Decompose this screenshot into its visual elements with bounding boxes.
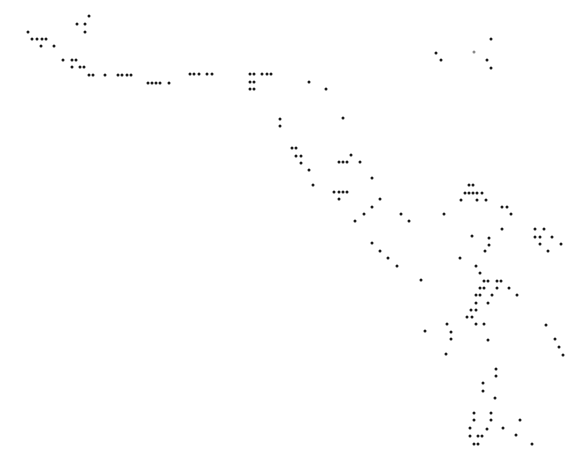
dot-mark: [534, 228, 537, 231]
dot-mark: [159, 82, 162, 85]
dot-mark: [495, 368, 498, 371]
dot-mark: [71, 66, 74, 69]
dot-mark: [539, 236, 542, 239]
dot-mark: [440, 59, 443, 62]
dot-mark: [354, 220, 357, 223]
dot-mark: [547, 250, 550, 253]
dot-mark: [468, 184, 471, 187]
dot-mark: [371, 206, 374, 209]
dot-mark: [473, 51, 476, 54]
dot-mark: [519, 419, 522, 422]
dot-mark: [300, 155, 303, 158]
dot-mark: [308, 81, 311, 84]
dot-mark: [475, 294, 478, 297]
dot-mark: [472, 192, 475, 195]
dot-mark: [279, 125, 282, 128]
dot-mark: [346, 191, 349, 194]
dot-mark: [333, 191, 336, 194]
dot-mark: [408, 220, 411, 223]
dot-mark: [483, 287, 486, 290]
dot-mark: [483, 280, 486, 283]
dot-mark: [371, 242, 374, 245]
dot-mark: [36, 38, 39, 41]
dot-mark: [491, 294, 494, 297]
dot-mark: [189, 73, 192, 76]
dot-mark: [475, 302, 478, 305]
dot-mark: [92, 74, 95, 77]
dot-mark: [488, 244, 491, 247]
dot-mark: [460, 199, 463, 202]
dot-mark: [464, 192, 467, 195]
dot-mark: [435, 52, 438, 55]
dot-mark: [363, 213, 366, 216]
dot-mark: [342, 191, 345, 194]
dot-mark: [496, 280, 499, 283]
dot-mark: [490, 412, 493, 415]
dot-mark: [79, 66, 82, 69]
dot-mark: [485, 199, 488, 202]
dot-mark: [484, 250, 487, 253]
dot-mark: [487, 339, 490, 342]
dot-mark: [506, 206, 509, 209]
dot-mark: [31, 38, 34, 41]
dot-mark: [338, 161, 341, 164]
dot-mark: [300, 162, 303, 165]
dot-mark: [562, 354, 565, 357]
dot-mark: [468, 192, 471, 195]
dot-mark: [501, 206, 504, 209]
dot-mark: [379, 250, 382, 253]
dot-mark: [551, 236, 554, 239]
dot-mark: [62, 59, 65, 62]
dot-mark: [471, 316, 474, 319]
dot-mark: [501, 228, 504, 231]
dot-mark: [71, 59, 74, 62]
dot-mark: [291, 147, 294, 150]
dot-mark: [479, 294, 482, 297]
dot-mark: [396, 265, 399, 268]
dot-drawing-canvas: [0, 0, 584, 461]
dot-mark: [130, 74, 133, 77]
dot-mark: [249, 81, 252, 84]
dot-mark: [539, 243, 542, 246]
dot-mark: [338, 191, 341, 194]
dot-mark: [211, 73, 214, 76]
dot-mark: [342, 117, 345, 120]
dot-mark: [308, 169, 311, 172]
dot-mark: [487, 302, 490, 305]
dot-mark: [420, 279, 423, 282]
dot-mark: [104, 74, 107, 77]
dot-mark: [473, 443, 476, 446]
dot-mark: [558, 346, 561, 349]
dot-mark: [481, 192, 484, 195]
dot-mark: [266, 73, 269, 76]
dot-mark: [469, 435, 472, 438]
dot-mark: [295, 155, 298, 158]
dot-mark: [459, 257, 462, 260]
dot-mark: [475, 309, 478, 312]
dot-mark: [443, 213, 446, 216]
dot-mark: [446, 323, 449, 326]
dot-mark: [350, 154, 353, 157]
dot-mark: [279, 118, 282, 121]
dot-mark: [359, 161, 362, 164]
dot-mark: [253, 73, 256, 76]
dot-mark: [253, 88, 256, 91]
dot-mark: [445, 353, 448, 356]
dot-mark: [88, 15, 91, 18]
dot-mark: [477, 435, 480, 438]
dot-mark: [476, 192, 479, 195]
dot-mark: [545, 324, 548, 327]
dot-mark: [466, 316, 469, 319]
dot-mark: [84, 23, 87, 26]
dot-mark: [486, 59, 489, 62]
dot-mark: [515, 434, 518, 437]
dot-mark: [502, 427, 505, 430]
dot-mark: [387, 257, 390, 260]
dot-mark: [450, 331, 453, 334]
dot-mark: [424, 330, 427, 333]
dot-mark: [496, 287, 499, 290]
dot-mark: [147, 82, 150, 85]
dot-mark: [371, 177, 374, 180]
dot-mark: [469, 427, 472, 430]
dot-mark: [490, 419, 493, 422]
